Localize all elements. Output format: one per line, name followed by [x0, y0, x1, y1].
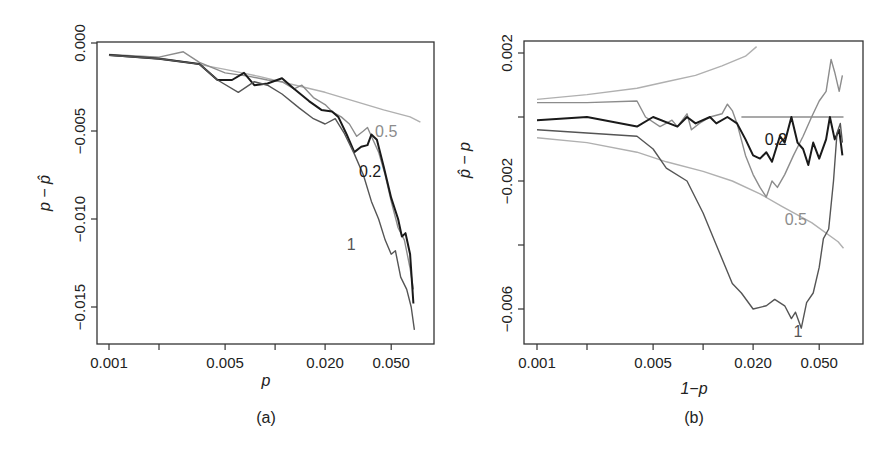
series-label-1: 1: [793, 323, 802, 340]
panel-b-y-axis: 0.002−0.002−0.006: [498, 34, 524, 332]
panel-b-caption: (b): [684, 409, 704, 426]
panel-a-xlabel: p: [261, 372, 271, 389]
series-line-0-5: [537, 59, 842, 197]
x-tick-label: 0.001: [90, 354, 128, 371]
panel-a-lines: [109, 52, 420, 330]
panel-a-y-axis: 0.000−0.005−0.010−0.015: [71, 24, 97, 330]
series-line-reference-upper: [537, 47, 757, 100]
panel-a-annotations: 0.50.21: [347, 123, 398, 253]
panel-b: 0.0010.0050.0200.050 0.002−0.002−0.006 0…: [456, 34, 863, 426]
x-tick-label: 0.050: [372, 354, 410, 371]
panel-a-caption: (a): [256, 409, 276, 426]
x-tick-label: 0.005: [634, 354, 672, 371]
panel-a-plot-frame: [97, 42, 434, 344]
panel-b-lines: [537, 47, 844, 329]
panel-b-ylabel: p̂ − p: [456, 142, 473, 179]
series-line-reference: [109, 55, 420, 122]
y-tick-label: −0.005: [71, 108, 88, 154]
y-tick-label: −0.006: [498, 286, 515, 332]
x-tick-label: 0.005: [206, 354, 244, 371]
y-tick-label: 0.000: [71, 24, 88, 62]
panel-a-ylabel: p − p̂: [36, 175, 53, 212]
y-tick-label: −0.002: [498, 158, 515, 204]
series-label-0-5: 0.5: [375, 123, 397, 140]
x-tick-label: 0.020: [306, 354, 344, 371]
panel-b-x-axis: 0.0010.0050.0200.050: [518, 344, 838, 371]
x-tick-label: 0.001: [518, 354, 556, 371]
y-tick-label: −0.015: [71, 284, 88, 330]
figure: 0.0010.0050.0200.050 0.000−0.005−0.010−0…: [0, 0, 886, 460]
series-line-1: [109, 55, 414, 330]
y-tick-label: −0.010: [71, 196, 88, 242]
series-label-0-5: 0.5: [785, 211, 807, 228]
y-tick-label: 0.002: [498, 34, 515, 72]
panel-b-xlabel: 1−p: [680, 380, 707, 397]
panel-a-x-axis: 0.0010.0050.0200.050: [90, 344, 410, 371]
panel-a: 0.0010.0050.0200.050 0.000−0.005−0.010−0…: [36, 24, 434, 426]
series-line-reference-lower: [537, 138, 844, 248]
series-label-0-2: 0.2: [765, 131, 787, 148]
x-tick-label: 0.050: [800, 354, 838, 371]
series-label-1: 1: [347, 236, 356, 253]
x-tick-label: 0.020: [734, 354, 772, 371]
series-label-0-2: 0.2: [359, 163, 381, 180]
